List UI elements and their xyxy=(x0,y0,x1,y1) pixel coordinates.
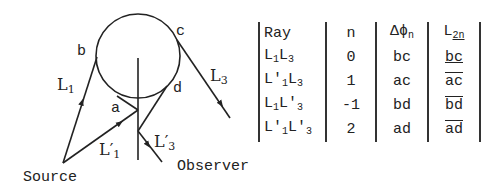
cell-ray: L′1L3 xyxy=(259,70,326,94)
ray-label-L1: L1 xyxy=(57,75,75,96)
header-ray: Ray xyxy=(259,22,326,46)
ray-L1 xyxy=(63,57,97,163)
cell-delta-phi: bc xyxy=(376,46,428,70)
cell-l2n: ac xyxy=(428,70,480,94)
table-row: L1L′3 -1 bd bd xyxy=(259,94,480,118)
table-row: L′1L3 1 ac ac xyxy=(259,70,480,94)
cell-ray: L1L′3 xyxy=(259,94,326,118)
header-delta-phi: Δϕn xyxy=(376,22,428,46)
cell-n: 1 xyxy=(326,70,376,94)
observer-label: Observer xyxy=(177,158,249,175)
cell-n: 0 xyxy=(326,46,376,70)
cell-ray: L1L3 xyxy=(259,46,326,70)
point-label-d: d xyxy=(173,80,182,97)
table-row: L1L3 0 bc bc xyxy=(259,46,480,70)
point-label-a: a xyxy=(111,100,120,117)
cell-l2n: bc xyxy=(428,46,480,70)
cell-delta-phi: ac xyxy=(376,70,428,94)
table-header-row: Ray n Δϕn L2n xyxy=(259,22,480,46)
tangent-d-line xyxy=(138,86,167,131)
cell-l2n: ad xyxy=(428,118,480,142)
cell-n: 2 xyxy=(326,118,376,142)
ray-label-L3: L3 xyxy=(210,66,228,87)
cell-delta-phi: bd xyxy=(376,94,428,118)
ray-phase-table: Ray n Δϕn L2n L1L3 0 bc bc L′1L3 1 ac ac… xyxy=(258,22,481,142)
cell-n: -1 xyxy=(326,94,376,118)
header-l2n: L2n xyxy=(428,22,480,46)
point-label-c: c xyxy=(176,23,185,40)
cell-l2n: bd xyxy=(428,94,480,118)
header-n: n xyxy=(326,22,376,46)
cell-ray: L′1L′3 xyxy=(259,118,326,142)
cell-delta-phi: ad xyxy=(376,118,428,142)
point-label-b: b xyxy=(77,43,86,60)
table-row: L′1L′3 2 ad ad xyxy=(259,118,480,142)
ray-label-L3-prime: L′3 xyxy=(154,132,175,153)
ray-label-L1-prime: L′1 xyxy=(99,140,120,161)
source-label: Source xyxy=(23,169,77,185)
